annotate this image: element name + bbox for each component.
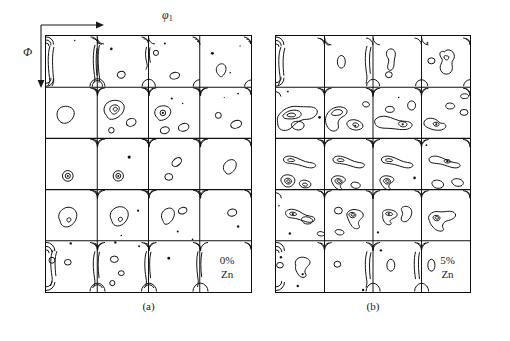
panel-b-annotation: 5% Zn — [423, 242, 472, 294]
cell-b-r2c4 — [424, 88, 470, 130]
cell-a-r2c1 — [57, 88, 105, 124]
cell-a-r1c1 — [46, 37, 75, 86]
cell-a-r5c2 — [90, 241, 124, 291]
cell-b-r4c1 — [276, 191, 332, 236]
cell-b-r1c4 — [427, 38, 470, 86]
panel-a: 0% Zn — [45, 35, 252, 293]
axis-label-phi1: φ1 — [162, 8, 173, 23]
cell-a-r3c3 — [165, 139, 208, 180]
cell-a-r3c4 — [223, 139, 251, 174]
panel-a-annotation: 0% Zn — [201, 242, 253, 294]
cell-b-r4c3 — [377, 191, 429, 234]
panel-a-caption: (a) — [45, 300, 252, 312]
cell-b-r5c1 — [276, 242, 332, 290]
cell-a-r1c3 — [142, 37, 181, 87]
cell-a-r4c2 — [110, 190, 156, 236]
cell-a-r5c1 — [46, 242, 72, 290]
cell-a-r4c1 — [59, 190, 105, 227]
cell-a-r1c2 — [90, 37, 126, 87]
cell-b-r1c1 — [276, 37, 331, 86]
phi1-subscript: 1 — [169, 14, 173, 23]
cell-a-r2c4 — [215, 88, 251, 130]
cell-b-r3c4 — [426, 139, 470, 188]
panel-a-zn-percent: 0% — [220, 254, 235, 268]
panel-a-zn-element: Zn — [221, 268, 233, 282]
cell-b-r2c3 — [375, 88, 429, 130]
figure-odf-contour-sections: φ1 Φ — [0, 0, 510, 341]
cell-a-r1c4 — [193, 37, 251, 87]
cell-a-r3c1 — [62, 139, 105, 181]
panel-b-zn-element: Zn — [441, 268, 453, 282]
panel-b-zn-percent: 5% — [440, 254, 455, 268]
panel-b-caption: (b) — [275, 300, 471, 312]
cell-b-r4c4 — [429, 191, 471, 232]
cell-b-r2c1 — [276, 88, 332, 130]
cell-b-r2c2 — [325, 88, 380, 131]
cell-a-r4c4 — [227, 190, 251, 228]
phi1-symbol: φ — [162, 8, 169, 22]
cell-a-r5c3 — [138, 242, 170, 291]
arrowhead-Phi — [38, 80, 45, 88]
cell-a-r4c3 — [161, 190, 208, 240]
cell-a-r3c2 — [113, 139, 156, 181]
arrowhead-phi1 — [96, 22, 104, 29]
panel-b: 5% Zn — [275, 35, 471, 293]
cell-b-r1c2 — [337, 38, 380, 86]
